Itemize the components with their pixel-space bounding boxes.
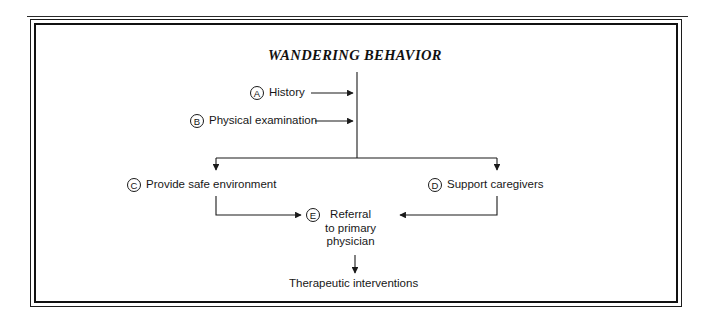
node-marker-c: C xyxy=(127,178,141,192)
node-marker-e: E xyxy=(306,208,320,222)
node-history: A History xyxy=(250,86,305,100)
node-label-referral-primary-physician: Referral to primary physician xyxy=(325,208,376,249)
node-support-caregivers: D Support caregivers xyxy=(428,178,544,192)
node-referral-primary-physician: E Referral to primary physician xyxy=(306,208,376,249)
node-marker-a: A xyxy=(250,86,264,100)
node-provide-safe-environment: C Provide safe environment xyxy=(127,178,276,192)
node-label-support-caregivers: Support caregivers xyxy=(447,178,544,192)
node-marker-b: B xyxy=(190,114,204,128)
figure-page: WANDERING BEHAVIOR A xyxy=(0,0,710,324)
node-label-physical-examination: Physical examination xyxy=(209,114,317,128)
node-physical-examination: B Physical examination xyxy=(190,114,317,128)
flowchart-connectors xyxy=(0,0,710,324)
node-marker-d: D xyxy=(428,178,442,192)
node-label-history: History xyxy=(269,86,305,100)
node-label-provide-safe-environment: Provide safe environment xyxy=(146,178,276,192)
arrow-safe-environment-to-referral xyxy=(216,196,301,215)
node-therapeutic-interventions: Therapeutic interventions xyxy=(289,277,418,291)
arrow-support-caregivers-to-referral xyxy=(400,196,497,215)
